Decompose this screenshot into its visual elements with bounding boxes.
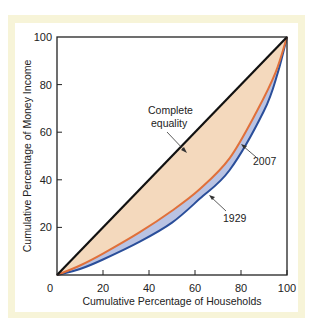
annotation-complete-equality-line1: Complete [148,104,193,116]
y-tick-label: 60 [40,126,52,138]
y-tick-label: 20 [40,221,52,233]
y-tick-label: 80 [40,79,52,91]
x-tick-label: 40 [143,282,155,294]
arrow-1929 [211,197,226,211]
y-axis-label: Cumulative Percentage of Money Income [21,60,33,253]
x-tick-label: 100 [278,282,296,294]
x-tick-label: 60 [189,282,201,294]
x-axis-label: Cumulative Percentage of Households [82,295,261,307]
arrow-head-icon [209,195,215,200]
y-tick-label: 40 [40,174,52,186]
x-tick-label: 20 [97,282,109,294]
y-tick-label: 100 [34,31,52,43]
lorenz-chart: 2040608010020406080100 0 Cumulative Perc… [0,0,312,325]
annotation-1929: 1929 [223,212,247,224]
annotation-complete-equality-line2: equality [151,117,188,129]
annotation-2007: 2007 [253,155,277,167]
x-tick-label: 80 [235,282,247,294]
origin-label: 0 [47,282,53,294]
arrow-complete-equality [167,132,185,151]
